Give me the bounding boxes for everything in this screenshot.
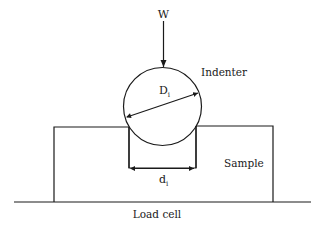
indent-diameter-label: di [159, 173, 169, 188]
load-cell-label: Load cell [133, 208, 182, 220]
indenter-label: Indenter [201, 66, 248, 78]
indenter-sphere [124, 68, 202, 146]
load-label: W [158, 8, 170, 21]
indentation-test-diagram: W Indenter Di Sample di Load cell [0, 0, 329, 226]
sample-label: Sample [224, 157, 264, 169]
